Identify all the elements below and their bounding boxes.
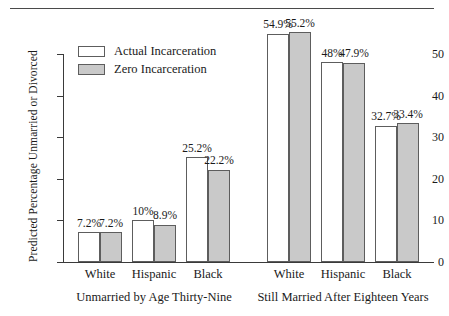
legend-label-actual: Actual Incarceration (114, 45, 216, 58)
legend-swatch-actual-icon (78, 46, 105, 57)
bar-value-label: 25.2% (175, 143, 219, 155)
bar-value-label: 55.2% (278, 18, 322, 30)
legend-swatch-zero-icon (78, 64, 105, 75)
bar-actual (132, 220, 154, 262)
x-axis-line (63, 262, 434, 263)
category-label: Black (357, 268, 437, 281)
top-rule (10, 8, 434, 9)
bar-zero (343, 63, 365, 262)
bar-zero (154, 225, 176, 262)
bar-value-label: 22.2% (197, 155, 241, 167)
bar-value-label: 7.2% (89, 218, 133, 230)
y-axis-title: Predicted Percentage Unmarried or Divorc… (27, 36, 39, 276)
panel-label: Still Married After Eighteen Years (233, 291, 449, 304)
bar-value-label: 8.9% (143, 210, 187, 222)
legend-item-actual: Actual Incarceration (78, 44, 216, 59)
legend-label-zero: Zero Incarceration (114, 63, 207, 76)
bar-value-label: 47.9% (332, 48, 376, 60)
bar-actual (186, 157, 208, 262)
bar-zero (289, 32, 311, 262)
legend-item-zero: Zero Incarceration (78, 62, 216, 77)
bar-zero (208, 170, 230, 262)
category-label: Black (168, 268, 248, 281)
bar-actual (267, 34, 289, 262)
legend: Actual Incarceration Zero Incarceration (78, 44, 216, 80)
bar-actual (78, 232, 100, 262)
bar-actual (321, 62, 343, 262)
bar-value-label: 33.4% (386, 109, 430, 121)
bar-zero (100, 232, 122, 262)
bar-zero (397, 123, 419, 262)
bar-actual (375, 126, 397, 262)
plot-area: 7.2%7.2%10%8.9%25.2%22.2%54.9%55.2%48%47… (63, 54, 434, 262)
panel-label: Unmarried by Age Thirty-Nine (44, 291, 264, 304)
